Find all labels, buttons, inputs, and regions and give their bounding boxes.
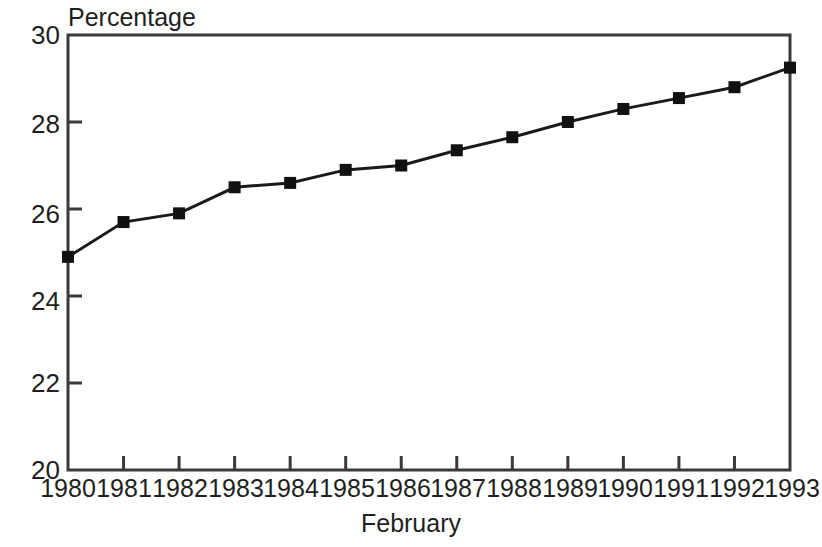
plot-area	[0, 0, 822, 547]
data-point-1988	[506, 131, 518, 143]
data-point-1990	[617, 103, 629, 115]
data-point-1989	[562, 116, 574, 128]
data-point-1982	[173, 207, 185, 219]
data-point-1993	[784, 62, 796, 74]
x-axis-ticks	[124, 456, 735, 470]
data-point-1983	[229, 181, 241, 193]
data-point-1980	[62, 251, 74, 263]
data-point-1991	[673, 92, 685, 104]
line-chart: Percentage 30 28 26 24 22 20 1980 1981 1…	[0, 0, 822, 547]
data-point-1981	[118, 216, 130, 228]
data-point-1985	[340, 164, 352, 176]
data-point-1984	[284, 177, 296, 189]
data-point-1992	[728, 81, 740, 93]
x-axis-title: February	[0, 508, 822, 538]
data-point-1987	[451, 144, 463, 156]
data-point-1986	[395, 160, 407, 172]
series-markers	[62, 62, 796, 263]
